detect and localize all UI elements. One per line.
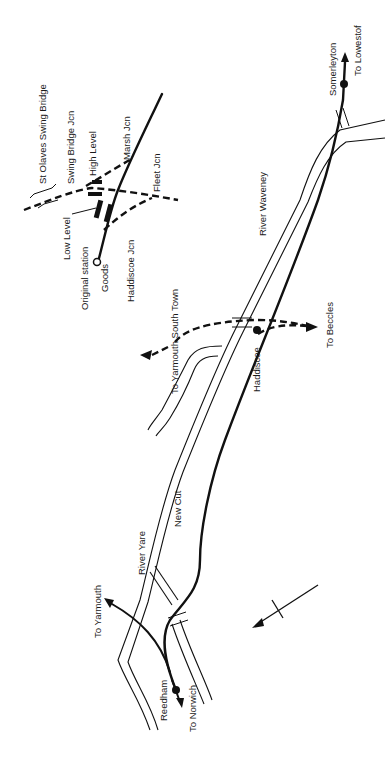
label-fleet-jcn: Fleet Jcn	[151, 153, 162, 192]
label-to-norwich: To Norwich	[187, 685, 198, 732]
station-reedham	[172, 686, 180, 694]
label-river-waveney: River Waveney	[257, 172, 268, 236]
label-reedham: Reedham	[158, 680, 169, 721]
label-st-olaves-swing-bridge: St Olaves Swing Bridge	[37, 84, 48, 184]
station-somerleyton	[340, 80, 348, 88]
label-haddiscoe-jcn: Haddiscoe Jcn	[125, 240, 136, 302]
label-high-level: High Level	[87, 131, 98, 176]
railway-map: St Olaves Swing Bridge Swing Bridge Jcn …	[0, 0, 391, 773]
label-river-yare: River Yare	[136, 531, 147, 575]
label-somerleyton: Somerleyton	[327, 43, 338, 96]
haddiscoe-closed-lines	[140, 320, 318, 360]
river-branch-haddiscoe	[148, 346, 222, 436]
label-new-cut: New Cut	[172, 490, 183, 527]
label-goods: Goods	[99, 264, 110, 292]
river-yare	[150, 566, 178, 605]
label-swing-bridge-jcn: Swing Bridge Jcn	[65, 111, 76, 184]
label-haddiscoe: Haddiscoe	[251, 347, 262, 392]
label-to-yarmouth: To Yarmouth	[92, 585, 103, 638]
reedham-norwich-line	[172, 680, 184, 708]
label-marsh-jcn: Marsh Jcn	[121, 116, 132, 160]
label-to-beccles: To Beccles	[324, 302, 335, 348]
label-to-lowestof: To Lowestof	[352, 25, 363, 76]
river-waveney-new-cut	[118, 120, 385, 730]
label-to-yarmouth-south-town: To Yarmouth South Town	[169, 289, 180, 394]
label-low-level: Low Level	[61, 217, 72, 260]
north-arrow	[252, 585, 318, 628]
label-original-station: Original station	[79, 247, 90, 310]
